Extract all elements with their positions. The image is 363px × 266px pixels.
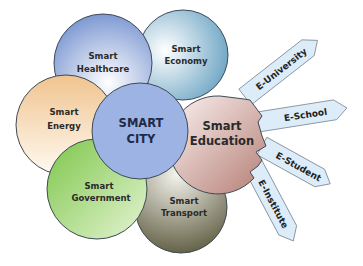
e-university-label: E-University	[254, 46, 309, 92]
healthcare-line2: Healthcare	[77, 64, 130, 74]
transport-line2: Transport	[161, 208, 207, 218]
energy-line2: Energy	[47, 121, 81, 131]
education-line2: Education	[190, 134, 254, 148]
arrow-e-university[interactable]: E-University	[239, 32, 324, 104]
healthcare-line1: Smart	[89, 51, 118, 61]
center-line1: SMART	[119, 116, 164, 130]
government-line1: Smart	[85, 181, 114, 191]
arrow-e-school[interactable]: E-School	[256, 98, 348, 132]
economy-line2: Economy	[165, 56, 208, 66]
node-smart-city-center[interactable]: SMART CITY	[92, 83, 188, 179]
transport-line1: Smart	[170, 196, 199, 206]
economy-line1: Smart	[172, 44, 201, 54]
education-line1: Smart	[202, 119, 242, 133]
smart-city-diagram: E-University E-School E-Student E-Instit…	[0, 0, 363, 266]
energy-line1: Smart	[50, 107, 79, 117]
center-line2: CITY	[127, 132, 157, 146]
government-line2: Government	[71, 193, 130, 203]
